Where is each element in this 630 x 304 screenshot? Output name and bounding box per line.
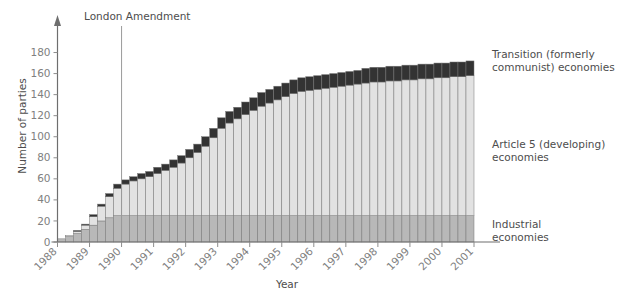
x-tick-label: 1998: [352, 245, 379, 272]
y-tick-label: 120: [30, 109, 50, 121]
bar-segment: [386, 216, 394, 242]
bar-segment: [258, 106, 266, 215]
bar-segment: [466, 76, 474, 216]
bar-segment: [242, 115, 250, 216]
x-tick-label: 1994: [224, 245, 252, 273]
legend-label-article5: Article 5 (developing) economies: [492, 138, 627, 163]
bar-segment: [450, 216, 458, 242]
bar-segment: [266, 216, 274, 242]
bar-segment: [210, 138, 218, 216]
bar-segment: [394, 66, 402, 81]
bar-segment: [362, 83, 370, 216]
x-tick-label: 1993: [192, 245, 219, 272]
x-tick-label: 1999: [384, 245, 411, 272]
bar-segment: [226, 111, 234, 123]
bar-segment: [218, 118, 226, 129]
bar-segment: [346, 71, 354, 85]
bar-segment: [346, 216, 354, 242]
bar-segment: [258, 93, 266, 107]
bar-segment: [290, 80, 298, 94]
bar-segment: [90, 215, 98, 217]
bar-segment: [306, 216, 314, 242]
bar-segment: [250, 98, 258, 111]
bar-segment: [322, 75, 330, 89]
bar-segment: [346, 85, 354, 216]
bar-segment: [242, 102, 250, 115]
bar-segment: [146, 216, 154, 242]
y-axis-title: Number of parties: [16, 56, 28, 196]
bar-segment: [122, 216, 130, 242]
bar-segment: [106, 218, 114, 242]
bar-segment: [162, 170, 170, 215]
bar-segment: [394, 81, 402, 216]
y-tick-label: 80: [37, 151, 50, 163]
bar-segment: [466, 216, 474, 242]
bar-segment: [362, 68, 370, 83]
bar-segment: [306, 77, 314, 91]
bar-segment: [290, 94, 298, 216]
bar-segment: [162, 164, 170, 170]
bar-segment: [194, 144, 202, 152]
bar-segment: [450, 62, 458, 77]
bar-segment: [314, 216, 322, 242]
bar-segment: [242, 216, 250, 242]
bar-segment: [138, 216, 146, 242]
bar-segment: [354, 70, 362, 84]
bar-segment: [130, 216, 138, 242]
bar-segment: [234, 216, 242, 242]
bar-segment: [170, 160, 178, 167]
bar-segment: [458, 216, 466, 242]
bar-segment: [434, 63, 442, 78]
bar-segment: [274, 100, 282, 216]
bar-segment: [386, 66, 394, 81]
bar-segment: [154, 216, 162, 242]
bar-segment: [410, 80, 418, 216]
bar-segment: [418, 79, 426, 216]
bar-segment: [122, 184, 130, 216]
bar-segment: [402, 80, 410, 216]
bar-segment: [170, 167, 178, 215]
x-axis-title: Year: [232, 278, 342, 290]
bar-segment: [114, 188, 122, 215]
bar-segment: [378, 82, 386, 216]
bar-segment: [330, 74, 338, 88]
bar-segment: [314, 89, 322, 215]
legend-label-transition: Transition (formerly communist) economie…: [492, 48, 627, 73]
bar-segment: [274, 86, 282, 100]
bar-segment: [442, 78, 450, 216]
london-amendment-annotation: London Amendment: [84, 10, 190, 22]
bar-segment: [250, 110, 258, 215]
bar-segment: [202, 146, 210, 215]
bar-segment: [194, 153, 202, 216]
bar-segment: [354, 216, 362, 242]
bar-segment: [282, 83, 290, 97]
y-tick-label: 60: [37, 172, 50, 184]
x-tick-label: 1991: [128, 245, 155, 272]
bar-segment: [202, 137, 210, 146]
bar-segment: [442, 63, 450, 78]
bar-segment: [362, 216, 370, 242]
bar-segment: [186, 216, 194, 242]
bar-segment: [282, 97, 290, 216]
bar-segment: [298, 91, 306, 215]
x-tick-label: 1989: [64, 245, 91, 272]
bar-segment: [106, 197, 114, 218]
bar-segment: [186, 158, 194, 216]
bar-segment: [258, 216, 266, 242]
bar-segment: [218, 128, 226, 215]
bar-segment: [146, 177, 154, 216]
bar-segment: [66, 237, 74, 242]
bar-segment: [442, 216, 450, 242]
bar-segment: [82, 229, 90, 242]
bar-segment: [138, 179, 146, 216]
bar-segment: [194, 216, 202, 242]
bar-segment: [338, 73, 346, 87]
bar-segment: [370, 82, 378, 216]
x-tick-label: 1988: [32, 245, 59, 272]
x-tick-label: 2001: [448, 245, 475, 272]
y-tick-label: 180: [30, 46, 50, 58]
bar-segment: [434, 78, 442, 216]
bar-segment: [154, 167, 162, 173]
bar-segment: [378, 216, 386, 242]
bar-segment: [418, 64, 426, 79]
